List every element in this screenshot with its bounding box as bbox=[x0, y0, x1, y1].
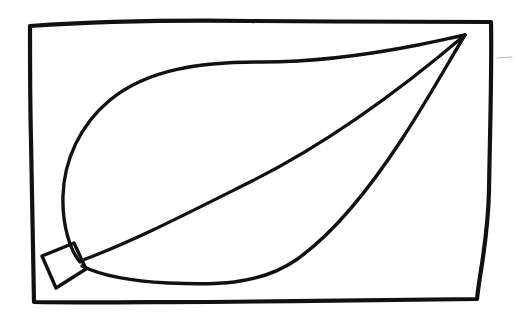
drawing-canvas: A simple black ink line drawing of a lea… bbox=[0, 0, 519, 313]
paper-background bbox=[0, 0, 519, 313]
leaf-drawing-svg bbox=[0, 0, 519, 313]
